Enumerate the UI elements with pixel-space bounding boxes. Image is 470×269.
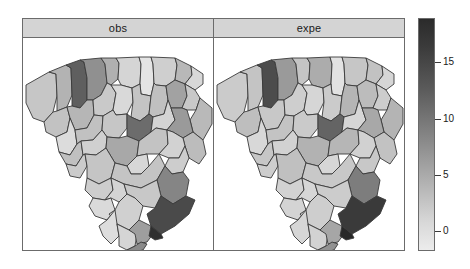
panel-body-obs [22,38,214,251]
figure-canvas: obs [0,0,470,269]
colorbar-tick-0 [435,231,441,232]
colorbar-label-15: 15 [443,57,454,67]
colorbar-label-10: 10 [443,114,454,124]
colorbar-gradient [418,18,435,251]
county-york [116,57,141,88]
colorbar-label-0: 0 [443,226,449,236]
panel-strip-expe: expe [213,18,405,38]
panel-strip-label-obs: obs [109,23,127,34]
colorbar-tick-5 [435,175,441,176]
colorbar-tick-15 [435,62,441,63]
county-newberry [102,110,127,138]
county-lancaster [330,57,345,96]
map-expe [214,38,405,251]
county-york [307,57,332,88]
panel-body-expe [213,38,405,251]
panel-strip-obs: obs [22,18,214,38]
panel-strip-label-expe: expe [297,23,322,34]
colorbar: 15 10 5 0 [416,18,468,251]
county-lancaster [139,57,154,96]
colorbar-tick-10 [435,119,441,120]
map-obs [23,38,214,251]
county-group-obs [26,57,212,251]
county-group-expe [217,57,403,251]
colorbar-label-5: 5 [443,170,449,180]
county-newberry [293,110,318,138]
